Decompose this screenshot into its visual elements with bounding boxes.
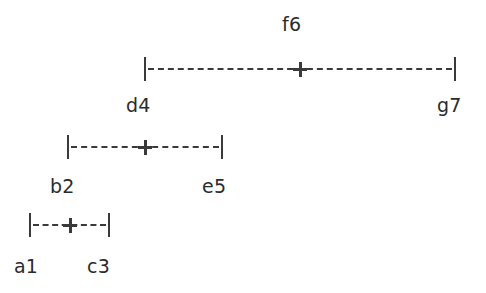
interval-top-left-cap [144, 57, 146, 81]
label-b2: b2 [50, 175, 75, 197]
interval-middle [67, 135, 223, 159]
interval-bottom [29, 213, 110, 237]
label-c3: c3 [87, 255, 110, 277]
label-a1: a1 [14, 255, 38, 277]
label-f6: f6 [282, 13, 301, 35]
interval-top-right-cap [454, 57, 456, 81]
label-g7: g7 [437, 94, 462, 116]
interval-top [144, 57, 456, 81]
diagram-canvas: f6 d4 g7 b2 e5 a1 c3 [0, 0, 486, 293]
label-d4: d4 [126, 94, 151, 116]
interval-middle-right-cap [221, 135, 223, 159]
interval-middle-left-cap [67, 135, 69, 159]
label-e5: e5 [202, 175, 226, 197]
interval-bottom-left-cap [29, 213, 31, 237]
interval-bottom-right-cap [108, 213, 110, 237]
